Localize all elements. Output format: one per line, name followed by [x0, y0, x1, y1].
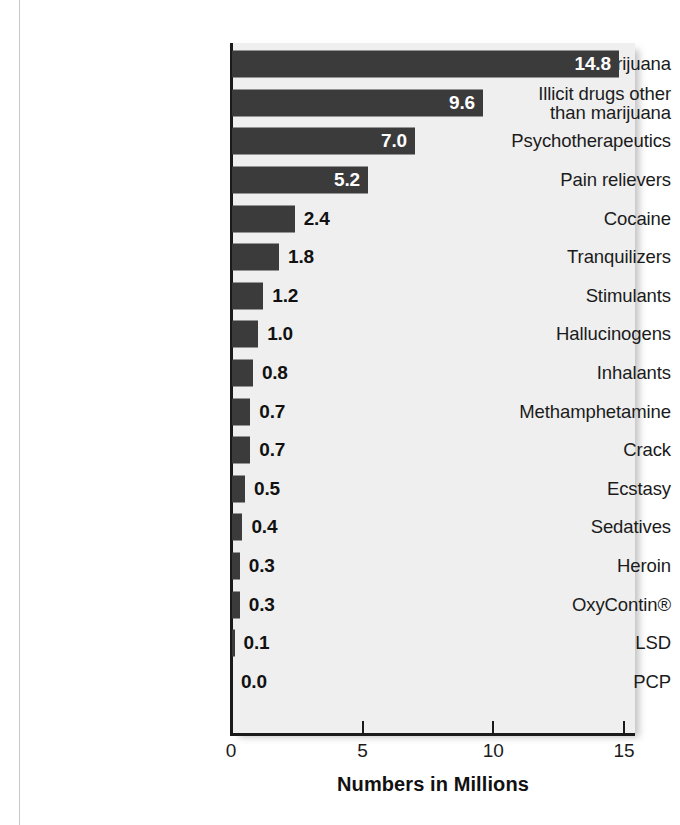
- x-axis-tick-label: 0: [226, 740, 237, 762]
- bar-value-label: 0.8: [262, 362, 288, 384]
- category-label-line: Inhalants: [458, 363, 671, 383]
- bar-row: Pain relievers5.2: [0, 161, 680, 200]
- bar: [232, 51, 619, 78]
- category-label: Ecstasy: [458, 479, 680, 499]
- bar-row: Illicit drugs otherthan marijuana9.6: [0, 84, 680, 123]
- bar-value-label: 0.7: [259, 439, 285, 461]
- x-axis-tick: [492, 721, 494, 734]
- bar-value-label: 2.4: [304, 208, 330, 230]
- bar: [232, 89, 483, 116]
- category-label-line: Crack: [458, 440, 671, 460]
- bar-chart-figure: Marijuana14.8Illicit drugs otherthan mar…: [0, 0, 680, 825]
- category-label-line: Stimulants: [458, 286, 671, 306]
- bar: [232, 591, 240, 618]
- bar-value-label: 0.3: [249, 555, 275, 577]
- category-label-line: Hallucinogens: [458, 325, 671, 345]
- bar-row: Hallucinogens1.0: [0, 315, 680, 354]
- category-label: Tranquilizers: [458, 247, 680, 267]
- category-label-line: Illicit drugs other: [458, 84, 671, 103]
- x-axis-tick-label: 10: [483, 740, 504, 762]
- category-label-line: than marijuana: [458, 103, 671, 122]
- category-label: Methamphetamine: [458, 402, 680, 422]
- x-axis-line: [230, 733, 635, 736]
- bar-row: Crack0.7: [0, 431, 680, 470]
- x-axis-tick-label: 5: [357, 740, 368, 762]
- category-label: Stimulants: [458, 286, 680, 306]
- category-label-line: Cocaine: [458, 209, 671, 229]
- category-label-line: Tranquilizers: [458, 247, 671, 267]
- bar: [232, 244, 279, 271]
- bar-value-label: 7.0: [381, 130, 407, 152]
- x-axis-title: Numbers in Millions: [231, 773, 635, 796]
- bar: [232, 553, 240, 580]
- bar-row: PCP0.0: [0, 663, 680, 702]
- bar-value-label: 14.8: [575, 53, 611, 75]
- category-label-line: LSD: [458, 633, 671, 653]
- category-label: Illicit drugs otherthan marijuana: [458, 84, 680, 122]
- category-label-line: Ecstasy: [458, 479, 671, 499]
- bar-value-label: 0.1: [244, 632, 270, 654]
- category-label: Sedatives: [458, 518, 680, 538]
- category-label-line: Heroin: [458, 556, 671, 576]
- bar: [232, 282, 263, 309]
- bar-row: Tranquilizers1.8: [0, 238, 680, 277]
- category-label: Cocaine: [458, 209, 680, 229]
- bar: [232, 514, 242, 541]
- category-label: Crack: [458, 440, 680, 460]
- bar-value-label: 0.3: [249, 594, 275, 616]
- category-label: PCP: [458, 672, 680, 692]
- bar-value-label: 0.0: [241, 671, 267, 693]
- bar-row: OxyContin®0.3: [0, 585, 680, 624]
- x-axis-tick: [623, 721, 625, 734]
- x-axis-tick: [362, 721, 364, 734]
- bar-row: LSD0.1: [0, 624, 680, 663]
- bar-row: Inhalants0.8: [0, 354, 680, 393]
- bar: [232, 475, 245, 502]
- bar: [232, 205, 295, 232]
- bar-value-label: 9.6: [449, 92, 475, 114]
- bar-value-label: 1.2: [272, 285, 298, 307]
- bar-row: Psychotherapeutics7.0: [0, 122, 680, 161]
- category-label-line: OxyContin®: [458, 595, 671, 615]
- bar-value-label: 1.0: [267, 323, 293, 345]
- bar-row: Sedatives0.4: [0, 508, 680, 547]
- category-label: Heroin: [458, 556, 680, 576]
- category-label: Inhalants: [458, 363, 680, 383]
- category-label-line: Sedatives: [458, 518, 671, 538]
- bar-value-label: 0.4: [251, 516, 277, 538]
- category-label-line: Methamphetamine: [458, 402, 671, 422]
- bar-value-label: 1.8: [288, 246, 314, 268]
- bar: [232, 360, 253, 387]
- category-label-line: Psychotherapeutics: [458, 132, 671, 152]
- bar: [232, 321, 258, 348]
- category-label: Psychotherapeutics: [458, 132, 680, 152]
- category-label: LSD: [458, 633, 680, 653]
- bar-row: Methamphetamine0.7: [0, 392, 680, 431]
- category-label: Hallucinogens: [458, 325, 680, 345]
- bar-value-label: 0.5: [254, 478, 280, 500]
- bar-value-label: 0.7: [259, 401, 285, 423]
- bar-row: Cocaine2.4: [0, 199, 680, 238]
- category-label-line: Pain relievers: [458, 170, 671, 190]
- x-axis-tick-label: 15: [613, 740, 634, 762]
- bar-value-label: 5.2: [334, 169, 360, 191]
- bar-row: Heroin0.3: [0, 547, 680, 586]
- bar: [232, 630, 235, 657]
- category-label: OxyContin®: [458, 595, 680, 615]
- bar: [232, 398, 250, 425]
- category-label: Pain relievers: [458, 170, 680, 190]
- bar-row: Ecstasy0.5: [0, 470, 680, 509]
- bar-row: Stimulants1.2: [0, 277, 680, 316]
- bar: [232, 437, 250, 464]
- category-label-line: PCP: [458, 672, 671, 692]
- bar-row: Marijuana14.8: [0, 45, 680, 84]
